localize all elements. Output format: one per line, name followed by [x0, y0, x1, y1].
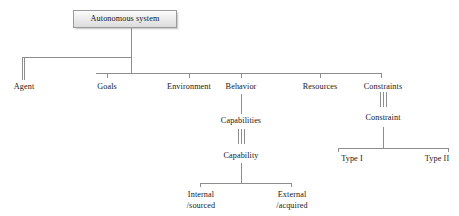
- node-constraint[interactable]: Constraint: [365, 113, 400, 124]
- connector-constraints-tick: [381, 73, 382, 78]
- autonomous-system-diagram: Autonomous system Agent Goals Environmen…: [0, 0, 459, 216]
- connector-agent-horizontal: [22, 57, 131, 58]
- connector-goals-tick: [107, 73, 108, 78]
- connector-capability-stem: [241, 163, 242, 183]
- node-environment[interactable]: Environment: [167, 82, 211, 93]
- connector-constraint-fork-bar: [338, 148, 448, 149]
- node-goals[interactable]: Goals: [97, 82, 117, 93]
- connector-behavior-capabilities: [241, 94, 242, 114]
- node-capability[interactable]: Capability: [223, 151, 258, 162]
- node-external-acquired[interactable]: External /acquired: [276, 189, 307, 211]
- node-internal-sourced-line2: /sourced: [187, 200, 216, 211]
- node-internal-sourced-line1: Internal: [188, 190, 214, 199]
- node-constraints[interactable]: Constraints: [364, 82, 402, 93]
- node-resources[interactable]: Resources: [303, 82, 338, 93]
- node-type-i[interactable]: Type I: [341, 154, 363, 165]
- connector-behavior-tick: [241, 73, 242, 78]
- connector-capability-fork-bar: [200, 183, 291, 184]
- node-external-acquired-line2: /acquired: [276, 200, 307, 211]
- connector-constraints-constraint-triple-bar: [380, 92, 387, 107]
- connector-capabilities-capability-triple-bar: [238, 129, 245, 144]
- root-node-autonomous-system[interactable]: Autonomous system: [73, 10, 177, 28]
- connector-internal-tick: [200, 183, 201, 187]
- connector-resources-tick: [320, 73, 321, 78]
- connector-type-ii-tick: [448, 148, 449, 152]
- node-capabilities[interactable]: Capabilities: [221, 116, 261, 127]
- node-external-acquired-line1: External: [278, 190, 307, 199]
- connector-environment-tick: [189, 73, 190, 78]
- connector-agent-double-bar: [22, 57, 25, 80]
- connector-type-i-tick: [338, 148, 339, 152]
- node-type-ii[interactable]: Type II: [425, 154, 449, 165]
- node-internal-sourced[interactable]: Internal /sourced: [187, 189, 216, 211]
- node-agent[interactable]: Agent: [14, 82, 35, 93]
- connector-external-tick: [291, 183, 292, 187]
- node-behavior[interactable]: Behavior: [226, 82, 257, 93]
- connector-main-bus: [96, 73, 381, 74]
- connector-root-stem: [131, 28, 132, 73]
- connector-constraint-stem: [383, 127, 384, 148]
